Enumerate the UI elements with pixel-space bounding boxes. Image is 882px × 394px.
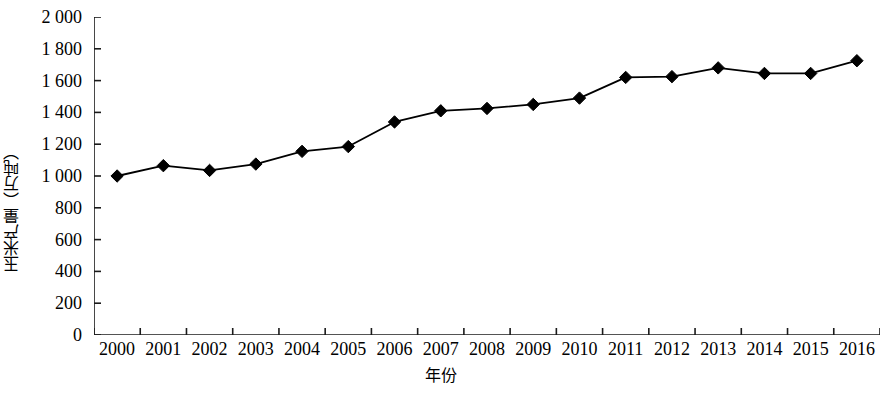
y-axis-tick-label: 0 bbox=[73, 326, 82, 344]
corn-production-line-chart: 玉米产量（万吨） 02004006008001 0001 2001 4001 6… bbox=[0, 0, 882, 394]
x-axis-title: 年份 bbox=[0, 368, 882, 384]
x-axis-tick-label: 2001 bbox=[145, 340, 181, 358]
y-axis-tick-label: 400 bbox=[55, 262, 82, 280]
data-point-marker bbox=[296, 145, 308, 157]
data-point-marker bbox=[851, 55, 863, 67]
y-axis-tick-label-group: 02004006008001 0001 2001 4001 6001 8002 … bbox=[28, 0, 86, 345]
y-axis-tick-label: 800 bbox=[55, 199, 82, 217]
y-axis-tick-label: 1 200 bbox=[42, 135, 83, 153]
data-point-marker bbox=[758, 67, 770, 79]
y-axis-tick-label: 2 000 bbox=[42, 8, 83, 26]
data-point-marker bbox=[804, 67, 816, 79]
data-point-marker bbox=[620, 71, 632, 83]
plot-area bbox=[94, 17, 880, 335]
data-point-marker bbox=[157, 159, 169, 171]
x-axis-tick-label: 2011 bbox=[608, 340, 643, 358]
x-axis-tick-label: 2004 bbox=[284, 340, 320, 358]
data-point-marker bbox=[527, 98, 539, 110]
x-axis-tick-label: 2007 bbox=[423, 340, 459, 358]
x-axis bbox=[94, 328, 880, 335]
x-axis-tick-label: 2006 bbox=[377, 340, 413, 358]
y-axis-tick-label: 600 bbox=[55, 231, 82, 249]
y-axis-tick-label: 1 000 bbox=[42, 167, 83, 185]
data-point-marker bbox=[203, 164, 215, 176]
y-axis-tick-label: 1 400 bbox=[42, 103, 83, 121]
x-axis-tick-label: 2016 bbox=[839, 340, 875, 358]
data-point-marker bbox=[712, 62, 724, 74]
data-point-marker bbox=[388, 116, 400, 128]
data-point-marker bbox=[250, 158, 262, 170]
data-point-marker bbox=[342, 140, 354, 152]
data-point-marker bbox=[573, 92, 585, 104]
x-axis-tick-label-group: 2000200120022003200420052006200720082009… bbox=[94, 340, 880, 366]
y-axis-tick-label: 1 800 bbox=[42, 40, 83, 58]
x-axis-tick-label: 2015 bbox=[793, 340, 829, 358]
x-axis-tick-label: 2014 bbox=[746, 340, 782, 358]
data-point-marker bbox=[111, 170, 123, 182]
data-point-marker bbox=[666, 70, 678, 82]
x-axis-tick-label: 2002 bbox=[192, 340, 228, 358]
y-axis-tick-label: 200 bbox=[55, 294, 82, 312]
y-axis-title: 玉米产量（万吨） bbox=[0, 95, 26, 320]
data-point-marker bbox=[481, 102, 493, 114]
x-axis-tick-label: 2010 bbox=[561, 340, 597, 358]
data-point-marker bbox=[435, 105, 447, 117]
x-axis-tick-label: 2008 bbox=[469, 340, 505, 358]
x-axis-tick-label: 2009 bbox=[515, 340, 551, 358]
x-axis-tick-label: 2012 bbox=[654, 340, 690, 358]
chart-canvas bbox=[94, 17, 880, 335]
y-axis-tick-label: 1 600 bbox=[42, 72, 83, 90]
x-axis-tick-label: 2003 bbox=[238, 340, 274, 358]
data-series-corn-production bbox=[111, 55, 863, 183]
x-axis-tick-label: 2013 bbox=[700, 340, 736, 358]
y-axis bbox=[94, 17, 101, 335]
x-axis-tick-label: 2000 bbox=[99, 340, 135, 358]
x-axis-tick-label: 2005 bbox=[330, 340, 366, 358]
y-axis-title-text: 玉米产量（万吨） bbox=[5, 144, 21, 272]
